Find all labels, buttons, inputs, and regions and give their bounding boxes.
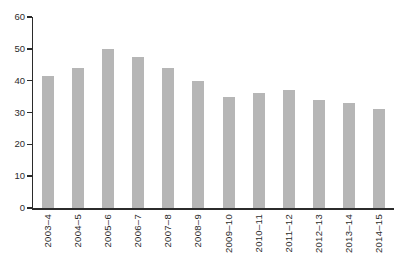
- bar: [313, 100, 325, 208]
- bar: [162, 68, 174, 208]
- y-axis-tick: [27, 112, 32, 114]
- y-axis-tick-label: 10: [3, 170, 25, 182]
- y-axis-tick-label: 60: [3, 11, 25, 23]
- x-axis-tick-label: 2009–10: [223, 214, 235, 253]
- bar: [283, 90, 295, 208]
- y-axis-tick: [27, 16, 32, 18]
- y-axis-tick: [27, 207, 32, 209]
- bar: [42, 76, 54, 208]
- x-axis-tick-label: 2003–4: [42, 214, 54, 248]
- x-axis-tick-label: 2013–14: [343, 214, 355, 253]
- x-axis-tick-label: 2005–6: [102, 214, 114, 248]
- bar: [253, 93, 265, 208]
- bar: [72, 68, 84, 208]
- y-axis-tick-label: 30: [3, 107, 25, 119]
- bar-chart-figure: 01020304050602003–42004–52005–62006–7200…: [0, 0, 406, 265]
- bar: [223, 97, 235, 208]
- y-axis-tick: [27, 175, 32, 177]
- bar: [102, 49, 114, 208]
- x-axis-tick-label: 2006–7: [132, 214, 144, 248]
- bar: [343, 103, 355, 208]
- y-axis-tick-label: 20: [3, 138, 25, 150]
- y-axis-tick-label: 0: [3, 202, 25, 214]
- y-axis-tick: [27, 48, 32, 50]
- bar: [132, 57, 144, 208]
- x-axis-tick-label: 2008–9: [192, 214, 204, 248]
- x-axis-tick-label: 2014–15: [373, 214, 385, 253]
- bar: [373, 109, 385, 208]
- y-axis-tick-label: 50: [3, 43, 25, 55]
- x-axis-tick-label: 2004–5: [72, 214, 84, 248]
- bar: [192, 81, 204, 208]
- y-axis-line: [32, 17, 34, 210]
- x-axis-line: [32, 208, 395, 210]
- x-axis-tick-label: 2007–8: [162, 214, 174, 248]
- x-axis-tick-label: 2011–12: [283, 214, 295, 252]
- plot-area: 01020304050602003–42004–52005–62006–7200…: [0, 0, 406, 265]
- x-axis-tick-label: 2010–11: [253, 214, 265, 252]
- y-axis-tick: [27, 144, 32, 146]
- x-axis-tick-label: 2012–13: [313, 214, 325, 253]
- y-axis-tick: [27, 80, 32, 82]
- y-axis-tick-label: 40: [3, 75, 25, 87]
